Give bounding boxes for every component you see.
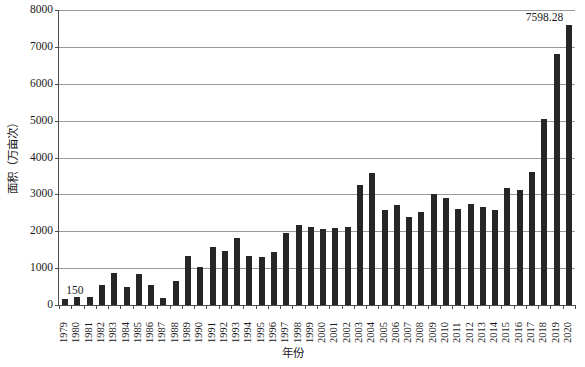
x-tick-label: 1994 [242, 309, 254, 343]
y-tick-label: 8000 [18, 4, 53, 16]
x-tick-label: 1988 [169, 309, 181, 343]
y-tick-mark [55, 158, 59, 159]
x-tick-label: 2001 [328, 309, 340, 343]
y-tick-mark [55, 194, 59, 195]
bar [246, 256, 252, 305]
y-tick-label: 0 [18, 299, 53, 311]
bar [566, 25, 572, 305]
bar [62, 299, 68, 305]
x-tick-label: 2003 [353, 309, 365, 343]
y-tick-label: 7000 [18, 41, 53, 53]
x-tick-label: 1998 [292, 309, 304, 343]
bar [455, 209, 461, 305]
bar [210, 247, 216, 305]
y-tick-label: 4000 [18, 152, 53, 164]
bar [332, 228, 338, 305]
bar [124, 287, 130, 305]
y-tick-label: 2000 [18, 226, 53, 238]
bar [87, 297, 93, 305]
y-tick-label: 6000 [18, 78, 53, 90]
x-tick-label: 1981 [83, 309, 95, 343]
x-tick-label: 2007 [402, 309, 414, 343]
y-tick-label: 3000 [18, 189, 53, 201]
bar [357, 185, 363, 305]
gridline [59, 194, 575, 195]
x-tick-label: 2011 [451, 309, 463, 343]
bar [259, 257, 265, 305]
bar [431, 194, 437, 305]
y-tick-mark [55, 121, 59, 122]
bar [468, 204, 474, 305]
x-tick-label: 2008 [414, 309, 426, 343]
x-tick-label: 1984 [120, 309, 132, 343]
x-tick-label: 1979 [58, 309, 70, 343]
x-tick-label: 1995 [255, 309, 267, 343]
x-tick-label: 2015 [500, 309, 512, 343]
x-tick-label: 2014 [488, 309, 500, 343]
bar [185, 256, 191, 305]
bar [173, 281, 179, 305]
plot-area [58, 10, 575, 306]
y-tick-label: 1000 [18, 262, 53, 274]
x-tick-label: 1986 [144, 309, 156, 343]
bar [504, 188, 510, 305]
bar [517, 190, 523, 305]
bar [492, 210, 498, 305]
y-tick-mark [55, 268, 59, 269]
bar [369, 173, 375, 305]
bar [234, 238, 240, 305]
x-tick-label: 2005 [378, 309, 390, 343]
x-axis-title: 年份 [0, 344, 585, 360]
bar [529, 172, 535, 305]
bar [443, 198, 449, 305]
gridline [59, 121, 575, 122]
x-tick-label: 1985 [132, 309, 144, 343]
bar [148, 285, 154, 305]
bar-chart: 面积（万亩次） 01000200030004000500060007000800… [0, 0, 585, 367]
bar [99, 285, 105, 305]
gridline [59, 158, 575, 159]
bar [271, 252, 277, 305]
x-tick-label: 2018 [537, 309, 549, 343]
bar [480, 207, 486, 305]
x-tick-label: 1989 [181, 309, 193, 343]
bar [160, 298, 166, 305]
x-tick-label: 1997 [279, 309, 291, 343]
y-tick-mark [55, 47, 59, 48]
x-tick-label: 2019 [550, 309, 562, 343]
x-tick-label: 1992 [218, 309, 230, 343]
bar [382, 210, 388, 305]
bar [74, 297, 80, 305]
x-tick-label: 2016 [513, 309, 525, 343]
data-label: 150 [66, 285, 83, 297]
x-tick-mark [575, 305, 576, 309]
bar [111, 273, 117, 305]
y-tick-mark [55, 10, 59, 11]
gridline [59, 47, 575, 48]
x-tick-label: 2013 [476, 309, 488, 343]
x-tick-label: 1991 [206, 309, 218, 343]
x-tick-label: 2020 [562, 309, 574, 343]
y-tick-mark [55, 84, 59, 85]
x-tick-label: 2012 [464, 309, 476, 343]
bar [394, 205, 400, 305]
x-tick-label: 1982 [95, 309, 107, 343]
bar [554, 54, 560, 305]
x-tick-label: 1983 [107, 309, 119, 343]
gridline [59, 84, 575, 85]
x-tick-label: 2004 [365, 309, 377, 343]
x-tick-label: 2002 [341, 309, 353, 343]
x-tick-label: 1996 [267, 309, 279, 343]
x-tick-label: 1990 [193, 309, 205, 343]
bar [418, 212, 424, 305]
x-tick-label: 2010 [439, 309, 451, 343]
bar [197, 267, 203, 305]
bar [345, 227, 351, 305]
y-axis-title-text: 面积（万亩次） [3, 117, 19, 194]
x-tick-label: 2009 [427, 309, 439, 343]
y-tick-label: 5000 [18, 115, 53, 127]
bar [320, 229, 326, 305]
bar [296, 225, 302, 305]
x-tick-label: 2000 [316, 309, 328, 343]
bar [222, 251, 228, 305]
